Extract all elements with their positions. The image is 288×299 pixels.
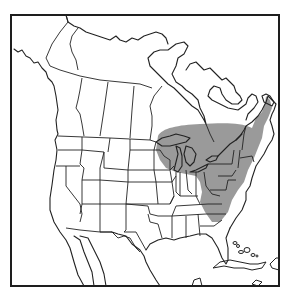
- gulf-coast-us: [146, 228, 230, 264]
- caribbean-islands: [192, 242, 279, 287]
- yucatan-tip: [192, 278, 202, 286]
- us-canada-border: [58, 136, 156, 142]
- arctic-coastline: [66, 15, 168, 44]
- alberta-sask-border: [100, 82, 108, 136]
- manitoba-ontario-border: [150, 86, 162, 140]
- cuba: [213, 260, 266, 270]
- yukon-nwt-border: [70, 28, 78, 70]
- gulf-coast-west: [112, 232, 160, 286]
- yukon-bc-border: [46, 15, 68, 66]
- range-area: [156, 96, 272, 222]
- range-map: [0, 0, 288, 299]
- bc-alberta-border: [76, 78, 84, 136]
- hudson-bay: [148, 42, 206, 124]
- labrador-coast: [186, 62, 258, 120]
- map-canvas: [0, 0, 288, 299]
- hispaniola: [270, 258, 279, 270]
- canada-60th-parallel: [50, 66, 152, 88]
- west-coastline: [14, 49, 84, 286]
- sask-manitoba-border: [130, 86, 134, 138]
